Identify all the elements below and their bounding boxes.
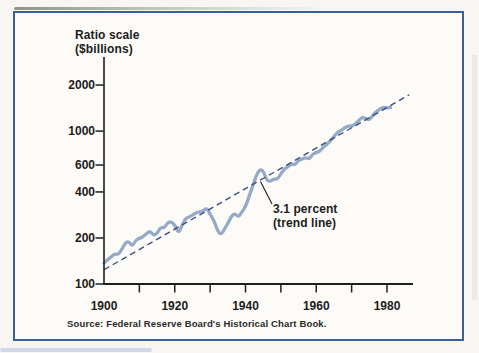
trend-annotation: 3.1 percent (trend line) [273,203,337,230]
page: 1900192019401960198010020040060010002000… [0,0,479,353]
y-axis-title-line1: Ratio scale [75,28,139,42]
y-tick-label: 1000 [68,124,95,138]
y-tick-label: 2000 [68,78,95,92]
y-tick-label: 400 [75,185,95,199]
trend-annotation-line2: (trend line) [273,217,337,231]
y-axis-title-line2: ($billions) [75,42,139,56]
trend-annotation-line1: 3.1 percent [273,203,337,217]
x-tick-label: 1980 [374,299,401,313]
x-tick-label: 1940 [232,299,259,313]
x-tick-label: 1960 [303,299,330,313]
x-tick-label: 1900 [91,299,118,313]
y-axis-title: Ratio scale ($billions) [75,28,139,56]
annotation-pointer-line [261,182,273,205]
y-tick-label: 100 [75,277,95,291]
trend-line [104,95,409,270]
chart-canvas: 1900192019401960198010020040060010002000 [0,0,479,353]
y-tick-label: 600 [75,158,95,172]
y-tick-label: 200 [75,231,95,245]
source-note: Source: Federal Reserve Board's Historic… [67,318,327,329]
x-tick-label: 1920 [161,299,188,313]
